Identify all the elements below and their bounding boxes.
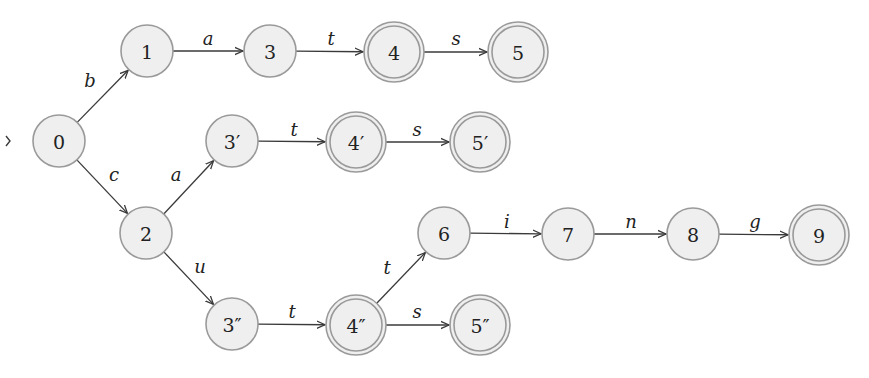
- state-node-8: 8: [667, 208, 719, 260]
- transition-label: b: [84, 70, 96, 91]
- transition-label: a: [203, 28, 214, 49]
- transition-arrow: [164, 252, 214, 304]
- state-label: 8: [687, 224, 699, 246]
- state-node-2: 2: [120, 207, 172, 259]
- transition-label: a: [171, 164, 182, 185]
- start-arrow-icon: [6, 136, 10, 146]
- state-label: 5: [512, 42, 524, 64]
- state-node-5: 5: [488, 22, 548, 82]
- state-label: 3′: [224, 131, 240, 153]
- state-node-5pp: 5″: [450, 295, 510, 355]
- transition-label: s: [451, 28, 460, 49]
- transition-arrow: [77, 160, 128, 213]
- state-label: 9: [813, 225, 825, 247]
- states-layer: 0134523′4′5′3″4″5″6789: [33, 22, 849, 355]
- state-label: 1: [141, 41, 153, 63]
- state-label: 0: [53, 131, 65, 153]
- state-node-5p: 5′: [450, 112, 510, 172]
- state-label: 6: [438, 223, 450, 245]
- automaton-diagram: batscatsutsting 0134523′4′5′3″4″5″6789: [0, 0, 869, 378]
- state-node-3: 3: [244, 25, 296, 77]
- transition-label: s: [412, 301, 421, 322]
- state-label: 4: [388, 42, 400, 64]
- transition-arrow: [258, 141, 325, 142]
- transition-label: n: [625, 211, 637, 232]
- state-node-4: 4: [364, 22, 424, 82]
- state-label: 3: [264, 41, 276, 63]
- transitions-layer: batscatsutsting: [77, 28, 788, 326]
- state-node-0: 0: [33, 115, 85, 167]
- state-label: 4′: [348, 132, 364, 154]
- state-node-4pp: 4″: [326, 295, 386, 355]
- transition-label: s: [412, 119, 421, 140]
- transition-label: t: [383, 257, 391, 278]
- transition-label: i: [504, 211, 510, 232]
- transition-arrow: [470, 233, 541, 234]
- state-node-9: 9: [789, 205, 849, 265]
- transition-label: c: [109, 164, 119, 185]
- state-label: 5″: [470, 315, 489, 337]
- transition-label: g: [749, 211, 761, 232]
- state-label: 3″: [222, 314, 241, 336]
- state-label: 2: [140, 223, 152, 245]
- transition-label: t: [290, 119, 298, 140]
- state-node-4p: 4′: [326, 112, 386, 172]
- transition-label: u: [194, 256, 206, 277]
- state-label: 5′: [472, 132, 488, 154]
- state-label: 7: [562, 224, 574, 246]
- state-node-7: 7: [542, 208, 594, 260]
- state-node-3p: 3′: [206, 115, 258, 167]
- transition-arrow: [719, 234, 788, 235]
- state-node-6: 6: [418, 207, 470, 259]
- transition-arrow: [258, 324, 325, 325]
- state-label: 4″: [346, 315, 365, 337]
- transition-label: t: [288, 301, 296, 322]
- state-node-3pp: 3″: [206, 298, 258, 350]
- transition-label: t: [327, 28, 335, 49]
- state-node-1: 1: [121, 25, 173, 77]
- transition-arrow: [296, 51, 363, 52]
